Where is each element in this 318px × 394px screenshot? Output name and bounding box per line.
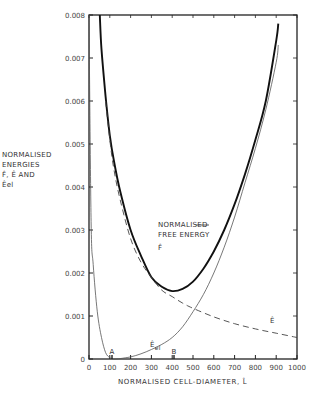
series-lines: [89, 15, 297, 359]
x-tick-label: 700: [228, 364, 241, 372]
x-tick-label: 900: [270, 364, 283, 372]
y-tick-label: 0.002: [65, 270, 85, 278]
free-energy-symbol: F̂: [158, 243, 162, 252]
y-tick-label: 0: [81, 356, 85, 364]
y-tick-label: 0.005: [65, 141, 85, 149]
free-energy-curve: [100, 15, 278, 291]
point-b-label: B: [171, 348, 176, 356]
free-energy-label-line-2: FREE ENERGY: [158, 231, 210, 239]
energy-chart: 0100200300400500600700800900100000.0010.…: [0, 0, 318, 394]
e-hat-label: Ê: [270, 316, 275, 325]
y-tick-label: 0.004: [65, 184, 86, 192]
y-tick-label: 0.007: [65, 55, 85, 63]
y-tick-label: 0.003: [65, 227, 85, 235]
e-el-subscript: el: [155, 344, 161, 351]
x-tick-label: 100: [103, 364, 116, 372]
x-tick-label: 300: [145, 364, 158, 372]
point-a-label: A: [109, 348, 114, 356]
e-hat-curve: [106, 101, 297, 338]
x-tick-label: 1000: [288, 364, 306, 372]
x-tick-label: 600: [207, 364, 220, 372]
x-tick-label: 800: [249, 364, 262, 372]
e-el-curve: [89, 15, 278, 359]
x-tick-label: 200: [124, 364, 137, 372]
y-axis-label-line-3: F̂, Ê AND: [2, 170, 52, 180]
y-tick-label: 0.001: [65, 313, 85, 321]
y-axis-label-line-2: ENERGIES: [2, 160, 52, 170]
y-tick-label: 0.008: [65, 12, 85, 20]
y-axis-label: NORMALISED ENERGIES F̂, Ê AND Êel: [2, 150, 52, 190]
y-axis-label-line-4: Êel: [2, 180, 52, 190]
plot-border: [89, 15, 297, 359]
y-axis-label-line-1: NORMALISED: [2, 150, 52, 160]
x-tick-label: 400: [166, 364, 179, 372]
y-tick-label: 0.006: [65, 98, 86, 106]
x-axis-label: NORMALISED CELL-DIAMETER, L̂: [118, 378, 247, 386]
plot-frame: [89, 15, 297, 359]
x-tick-label: 0: [87, 364, 91, 372]
x-tick-label: 500: [186, 364, 199, 372]
